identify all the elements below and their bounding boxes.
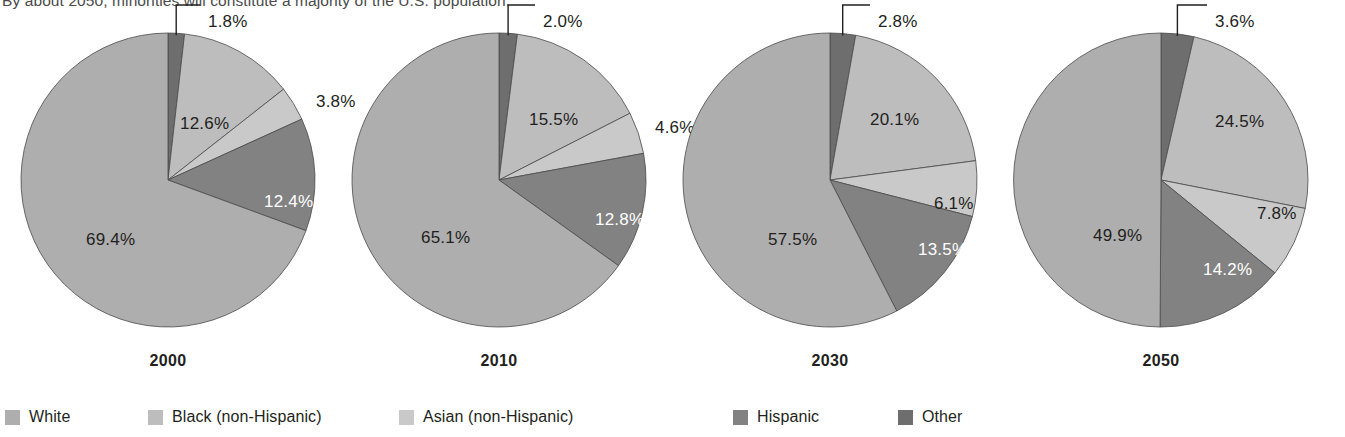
legend-item-label: Asian (non-Hispanic) [423, 408, 574, 426]
pie-panel-2000: 1.8%12.6%3.8%12.4%69.4%2000 [0, 0, 336, 392]
legend-item-label: Hispanic [757, 408, 819, 426]
pie-year-label-2010: 2010 [331, 352, 667, 370]
chart-legend: WhiteBlack (non-Hispanic)Asian (non-Hisp… [0, 406, 1345, 434]
pie-panel-2050: 3.6%24.5%7.8%14.2%49.9%2050 [993, 0, 1329, 392]
slice-value-label: 1.8% [208, 12, 248, 32]
slice-value-label: 14.2% [1203, 260, 1252, 280]
legend-item-label: Black (non-Hispanic) [172, 408, 322, 426]
legend-item-label: Other [922, 408, 963, 426]
legend-item-asian-non-hispanic[interactable]: Asian (non-Hispanic) [399, 406, 574, 428]
slice-value-label: 49.9% [1093, 226, 1142, 246]
legend-swatch-icon [733, 410, 748, 425]
pie-svg-2000 [20, 32, 316, 328]
pie-year-label-2000: 2000 [0, 352, 336, 370]
slice-value-label: 2.8% [878, 12, 918, 32]
slice-value-label: 3.6% [1215, 12, 1255, 32]
legend-item-white[interactable]: White [5, 406, 70, 428]
pie-svg-2010 [351, 32, 647, 328]
slice-value-label: 69.4% [86, 230, 135, 250]
legend-item-label: White [29, 408, 70, 426]
pie-chart-2010: 2.0%15.5%4.6%12.8%65.1% [351, 32, 647, 328]
legend-item-black-non-hispanic[interactable]: Black (non-Hispanic) [148, 406, 322, 428]
slice-value-label: 12.4% [264, 192, 313, 212]
pie-chart-2000: 1.8%12.6%3.8%12.4%69.4% [20, 32, 316, 328]
slice-value-label: 15.5% [529, 110, 578, 130]
pie-panel-2010: 2.0%15.5%4.6%12.8%65.1%2010 [331, 0, 667, 392]
slice-value-label: 12.8% [595, 210, 644, 230]
pie-chart-2030: 2.8%20.1%6.1%13.5%57.5% [682, 32, 978, 328]
pie-panel-2030: 2.8%20.1%6.1%13.5%57.5%2030 [662, 0, 998, 392]
slice-value-label: 65.1% [421, 228, 470, 248]
slice-value-label: 20.1% [870, 110, 919, 130]
legend-swatch-icon [148, 410, 163, 425]
legend-swatch-icon [399, 410, 414, 425]
legend-swatch-icon [898, 410, 913, 425]
pie-svg-2050 [1013, 32, 1309, 328]
slice-value-label: 13.5% [918, 240, 967, 260]
slice-value-label: 6.1% [934, 194, 974, 214]
slice-value-label: 2.0% [543, 12, 583, 32]
slice-value-label: 7.8% [1257, 204, 1297, 224]
pie-slice-white[interactable] [1014, 33, 1161, 327]
slice-value-label: 12.6% [180, 114, 229, 134]
legend-item-hispanic[interactable]: Hispanic [733, 406, 819, 428]
legend-item-other[interactable]: Other [898, 406, 963, 428]
pie-chart-2050: 3.6%24.5%7.8%14.2%49.9% [1013, 32, 1309, 328]
pie-year-label-2050: 2050 [993, 352, 1329, 370]
pie-slice-black-non-hispanic[interactable] [830, 35, 976, 180]
slice-value-label: 24.5% [1215, 112, 1264, 132]
pie-svg-2030 [682, 32, 978, 328]
slice-value-label: 57.5% [768, 230, 817, 250]
pie-year-label-2030: 2030 [662, 352, 998, 370]
legend-swatch-icon [5, 410, 20, 425]
